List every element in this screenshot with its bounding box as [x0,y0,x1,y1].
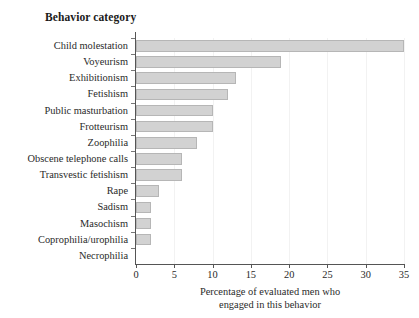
y-axis-tick-label: Obscene telephone calls [0,151,131,167]
x-axis-tick-label: 0 [133,269,138,280]
x-axis-tick [251,264,252,268]
x-axis-tick-label: 35 [399,269,409,280]
x-axis-tick [366,264,367,268]
bar-row [136,54,404,70]
bar-row [136,86,404,102]
bar-row [136,135,404,151]
y-axis-tick-label: Child molestation [0,38,131,54]
bar [136,89,228,101]
x-axis-label-line-2: engaged in this behavior [136,299,404,312]
y-axis-tick [131,232,135,233]
y-axis-tick-label: Transvestic fetishism [0,167,131,183]
bar [136,218,151,230]
y-axis-tick [131,167,135,168]
x-axis-tick [174,264,175,268]
y-axis-tick-label: Fetishism [0,86,131,102]
bar [136,234,151,246]
y-axis-tick-label: Masochism [0,216,131,232]
bar [136,169,182,181]
y-axis-tick-label: Public masturbation [0,103,131,119]
bar [136,202,151,214]
y-axis-tick-labels: Child molestationVoyeurismExhibitionismF… [0,38,131,264]
x-axis-tick-label: 5 [172,269,177,280]
page-title: Behavior category [45,11,136,23]
y-axis-tick [131,216,135,217]
bar [136,153,182,165]
plot-area [136,38,404,264]
bar-row [136,248,404,264]
y-axis-tick [131,54,135,55]
y-axis-tick-label: Voyeurism [0,54,131,70]
y-axis-tick-label: Sadism [0,199,131,215]
x-axis-tick [213,264,214,268]
y-axis-tick [131,199,135,200]
y-axis-tick [131,135,135,136]
x-axis-tick-label: 20 [284,269,294,280]
y-axis-tick-label: Coprophilia/urophilia [0,232,131,248]
bar [136,121,213,133]
x-axis-tick-label: 30 [361,269,371,280]
x-axis-tick [327,264,328,268]
bar [136,185,159,197]
bar-series [136,38,404,264]
bar-row [136,232,404,248]
bar [136,105,213,117]
y-axis-tick [131,38,135,39]
y-axis-tick [131,86,135,87]
x-axis-tick [136,264,137,268]
bar-row [136,216,404,232]
bar-row [136,151,404,167]
y-axis-tick [131,151,135,152]
y-axis-tick-label: Exhibitionism [0,70,131,86]
y-axis-tick-label: Zoophilia [0,135,131,151]
x-axis-label: Percentage of evaluated men who engaged … [136,286,404,311]
bar-row [136,38,404,54]
y-axis-tick-label: Frotteurism [0,119,131,135]
bar-row [136,119,404,135]
y-axis-tick [131,119,135,120]
bar [136,56,281,68]
x-axis-tick-label: 10 [207,269,217,280]
bar-row [136,183,404,199]
x-axis-tick-label: 15 [246,269,256,280]
bar [136,72,236,84]
x-axis-ticks: 05101520253035 [136,264,404,284]
y-axis-tick [131,70,135,71]
bar-row [136,167,404,183]
bar [136,137,197,149]
x-axis-tick [289,264,290,268]
bar-row [136,199,404,215]
bar-row [136,103,404,119]
x-axis-label-line-1: Percentage of evaluated men who [136,286,404,299]
x-axis-tick [404,264,405,268]
gridline [404,38,405,264]
bar-chart: Behavior category Child molestationVoyeu… [0,0,419,318]
y-axis-tick-label: Rape [0,183,131,199]
y-axis-tick-label: Necrophilia [0,248,131,264]
y-axis-tick [131,103,135,104]
y-axis-tick [131,183,135,184]
bar [136,40,404,52]
y-axis-tick [131,248,135,249]
bar-row [136,70,404,86]
x-axis-tick-label: 25 [322,269,332,280]
